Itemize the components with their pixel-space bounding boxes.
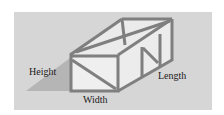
length-label: Length	[158, 71, 186, 81]
width-label: Width	[83, 95, 108, 105]
box-frame-diagram	[0, 0, 224, 115]
height-label: Height	[29, 67, 56, 77]
